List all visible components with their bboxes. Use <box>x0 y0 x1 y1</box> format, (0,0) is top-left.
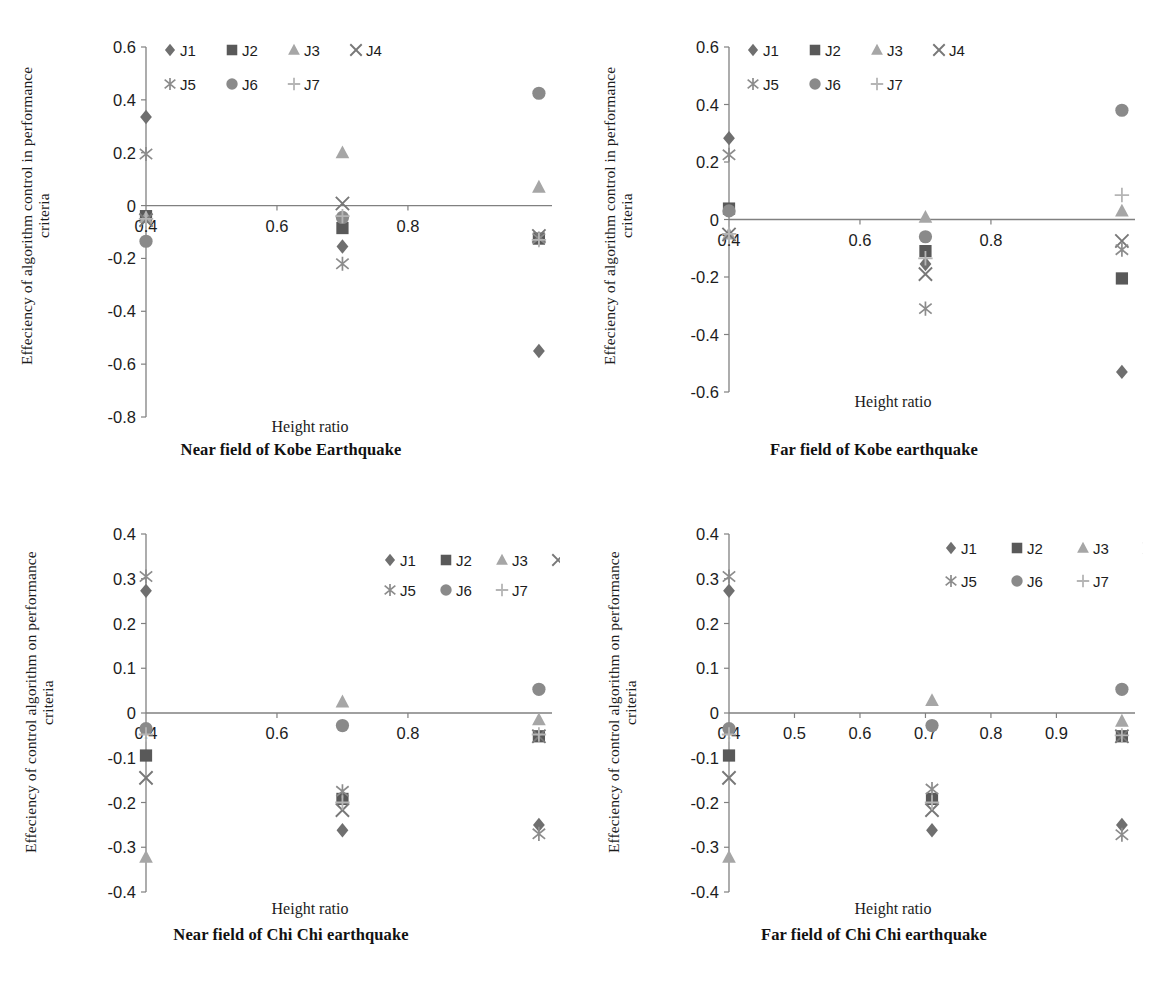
y-tick-label: -0.2 <box>691 794 719 812</box>
data-point-plus <box>1077 575 1089 587</box>
y-tick-label: 0.6 <box>696 38 719 56</box>
data-point-J6 <box>1115 104 1128 117</box>
data-point-circle <box>1011 575 1022 586</box>
y-tick-label: -0.4 <box>691 326 719 344</box>
data-point-cross-x <box>933 44 944 55</box>
data-point-circle <box>809 78 820 89</box>
y-tick-label: -0.3 <box>691 838 719 856</box>
y-tick-label: -0.6 <box>108 355 136 373</box>
legend-item-J1[interactable]: J1 <box>165 42 196 59</box>
y-tick-label: 0.3 <box>696 570 719 588</box>
y-axis-label: Effeciency of control algorithm on perfo… <box>22 530 62 875</box>
data-point-J1 <box>723 584 735 598</box>
data-point-J1 <box>337 823 349 837</box>
y-tick-label: -0.4 <box>691 883 719 901</box>
legend-item-J1[interactable]: J1 <box>748 42 779 59</box>
chart-svg: -0.4-0.3-0.2-0.100.10.20.30.40.40.60.8J1… <box>60 512 560 902</box>
y-tick-label: 0.4 <box>696 96 719 114</box>
legend-label-J4: J4 <box>949 42 965 59</box>
legend-item-J4[interactable]: J4 <box>350 42 382 59</box>
legend-label-J3: J3 <box>512 552 528 569</box>
y-tick-label: -0.1 <box>108 749 136 767</box>
data-point-J5 <box>140 569 152 583</box>
y-tick-label: -0.3 <box>108 838 136 856</box>
legend-item-J7[interactable]: J7 <box>496 582 528 599</box>
data-point-circle <box>440 584 451 595</box>
y-tick-label: -0.2 <box>691 268 719 286</box>
legend-item-J2[interactable]: J2 <box>810 42 841 59</box>
legend-item-J3[interactable]: J3 <box>1077 540 1109 557</box>
data-point-diamond <box>946 542 956 554</box>
y-tick-label: -0.2 <box>108 249 136 267</box>
data-point-J5 <box>1116 828 1128 842</box>
legend-label-J2: J2 <box>825 42 841 59</box>
plot-area: -0.4-0.3-0.2-0.100.10.20.30.40.40.50.60.… <box>643 512 1143 902</box>
legend-item-J3[interactable]: J3 <box>496 552 528 569</box>
y-axis-label: Effeciency of algorithm control in perfo… <box>18 46 58 386</box>
y-tick-label: -0.2 <box>108 794 136 812</box>
data-point-J6 <box>336 719 349 732</box>
data-point-J6 <box>532 683 545 696</box>
legend-label-J2: J2 <box>1027 540 1043 557</box>
legend-item-J6[interactable]: J6 <box>1011 573 1043 590</box>
legend-item-J5[interactable]: J5 <box>385 582 416 599</box>
data-point-J1 <box>1116 365 1128 379</box>
legend-item-J1[interactable]: J1 <box>385 552 416 569</box>
legend-item-J5[interactable]: J5 <box>165 76 196 93</box>
data-point-square <box>441 555 452 566</box>
legend-label-J1: J1 <box>180 42 196 59</box>
legend-label-J5: J5 <box>180 76 196 93</box>
data-point-square <box>1012 543 1023 554</box>
legend-item-J4[interactable]: J4 <box>552 552 560 569</box>
legend-item-J6[interactable]: J6 <box>226 76 258 93</box>
y-tick-label: -0.4 <box>108 883 136 901</box>
legend: J1J2J3J4J5J6J7 <box>385 552 560 599</box>
legend-item-J1[interactable]: J1 <box>946 540 977 557</box>
legend-label-J6: J6 <box>456 582 472 599</box>
data-point-plus <box>288 78 300 90</box>
legend-item-J2[interactable]: J2 <box>227 42 258 59</box>
data-point-J7 <box>1115 188 1129 202</box>
data-point-J5 <box>533 827 545 841</box>
legend-label-J3: J3 <box>1093 540 1109 557</box>
legend-item-J7[interactable]: J7 <box>1077 573 1109 590</box>
legend-item-J7[interactable]: J7 <box>871 76 903 93</box>
x-tick-label: 0.8 <box>979 724 1002 742</box>
data-point-J1 <box>926 823 938 837</box>
legend-label-J2: J2 <box>456 552 472 569</box>
legend-item-J3[interactable]: J3 <box>871 42 903 59</box>
legend: J1J2J3J4J5J6J7 <box>748 42 965 93</box>
data-point-diamond <box>748 44 758 56</box>
data-point-diamond <box>385 554 395 566</box>
data-point-J1 <box>723 131 735 145</box>
legend-item-J6[interactable]: J6 <box>440 582 472 599</box>
legend-item-J6[interactable]: J6 <box>809 76 841 93</box>
data-point-asterisk <box>385 584 396 596</box>
data-point-J4 <box>336 197 349 210</box>
data-point-J3 <box>722 850 736 863</box>
legend-item-J2[interactable]: J2 <box>441 552 472 569</box>
data-point-cross-x <box>350 44 361 55</box>
legend-item-J3[interactable]: J3 <box>288 42 320 59</box>
chart-svg: -0.8-0.6-0.4-0.200.20.40.60.40.60.8J1J2J… <box>60 28 560 428</box>
data-point-plus <box>496 584 508 596</box>
legend-item-J5[interactable]: J5 <box>946 573 977 590</box>
legend-label-J7: J7 <box>887 76 903 93</box>
y-tick-label: 0.2 <box>696 153 719 171</box>
legend-item-J4[interactable]: J4 <box>933 42 965 59</box>
y-tick-label: 0.2 <box>113 615 136 633</box>
data-point-J2 <box>140 749 152 761</box>
legend-item-J2[interactable]: J2 <box>1012 540 1043 557</box>
chart-panel-near-field-chichi: Effeciency of control algorithm on perfo… <box>0 500 582 1001</box>
legend-label-J6: J6 <box>825 76 841 93</box>
x-tick-label: 0.8 <box>396 724 419 742</box>
legend-label-J6: J6 <box>242 76 258 93</box>
legend-label-J5: J5 <box>763 76 779 93</box>
y-tick-label: 0.4 <box>696 525 719 543</box>
y-tick-label: -0.4 <box>108 302 136 320</box>
legend-item-J7[interactable]: J7 <box>288 76 320 93</box>
data-point-J5 <box>723 148 735 162</box>
data-point-J5 <box>140 147 152 161</box>
legend-item-J5[interactable]: J5 <box>748 76 779 93</box>
legend-label-J7: J7 <box>304 76 320 93</box>
